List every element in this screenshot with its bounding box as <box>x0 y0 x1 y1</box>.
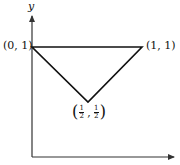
comma: , <box>87 107 91 118</box>
y-denominator: 2 <box>94 113 98 120</box>
point-label-0-1: (0, 1) <box>3 40 33 51</box>
close-paren: ) <box>100 104 106 120</box>
point-label-half-half: ( 1 2 , 1 2 ) <box>72 104 106 120</box>
x-fraction: 1 2 <box>79 105 84 120</box>
triangle-diagram <box>0 0 180 165</box>
x-denominator: 2 <box>80 113 84 120</box>
triangle <box>32 47 142 102</box>
point-label-1-1: (1, 1) <box>146 40 176 51</box>
y-numerator: 1 <box>94 105 98 112</box>
y-axis-label: y <box>28 1 34 12</box>
y-fraction: 1 2 <box>94 105 99 120</box>
open-paren: ( <box>72 104 78 120</box>
x-numerator: 1 <box>80 105 84 112</box>
